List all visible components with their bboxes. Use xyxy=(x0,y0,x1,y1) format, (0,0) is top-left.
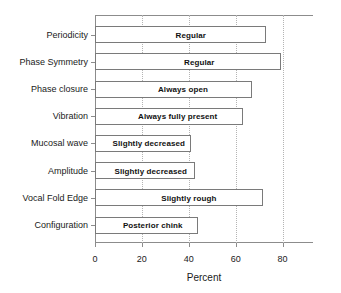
y-tick-label-2: Phase closure xyxy=(31,84,88,94)
x-tick-mark-0 xyxy=(95,243,96,247)
plot-area: 020406080 PeriodicityPhase SymmetryPhase… xyxy=(95,15,313,243)
bar-label-2: Always open xyxy=(158,85,208,94)
y-tick-label-5: Amplitude xyxy=(48,166,88,176)
y-tick-label-1: Phase Symmetry xyxy=(19,57,88,67)
bar-label-7: Posterior chink xyxy=(123,221,183,230)
gridline-40 xyxy=(189,15,191,243)
y-tick-label-0: Periodicity xyxy=(46,30,88,40)
y-tick-label-4: Mucosal wave xyxy=(31,138,88,148)
x-tick-label-60: 60 xyxy=(231,254,241,264)
x-tick-mark-60 xyxy=(236,243,237,247)
bar-label-6: Slightly rough xyxy=(161,193,216,202)
x-axis-line xyxy=(95,242,313,243)
x-axis-title: Percent xyxy=(95,272,313,283)
x-tick-mark-20 xyxy=(142,243,143,247)
bar-label-4: Slightly decreased xyxy=(113,139,186,148)
x-tick-label-0: 0 xyxy=(92,254,97,264)
x-tick-label-80: 80 xyxy=(278,254,288,264)
x-tick-mark-40 xyxy=(189,243,190,247)
y-tick-label-3: Vibration xyxy=(53,111,88,121)
gridline-60 xyxy=(236,15,238,243)
x-tick-label-40: 40 xyxy=(184,254,194,264)
y-tick-label-6: Vocal Fold Edge xyxy=(22,193,88,203)
gridline-20 xyxy=(142,15,144,243)
bar-label-3: Always fully present xyxy=(138,112,217,121)
bar-chart: 020406080 PeriodicityPhase SymmetryPhase… xyxy=(0,0,341,293)
gridline-80 xyxy=(283,15,285,243)
plot-top-border xyxy=(95,15,313,16)
bar-label-5: Slightly decreased xyxy=(115,166,188,175)
y-axis-line xyxy=(95,15,96,243)
bar-label-1: Regular xyxy=(184,57,215,66)
x-tick-label-20: 20 xyxy=(137,254,147,264)
x-tick-mark-80 xyxy=(283,243,284,247)
bar-label-0: Regular xyxy=(176,30,207,39)
y-tick-label-7: Configuration xyxy=(34,220,88,230)
